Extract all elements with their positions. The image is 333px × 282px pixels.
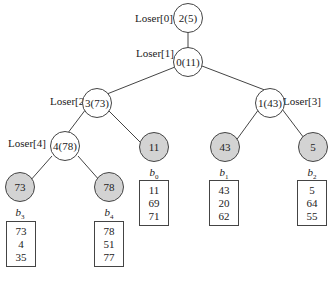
leaf-b0-node: 11 xyxy=(139,132,169,162)
buffer-b0: 11 69 71 xyxy=(139,180,169,226)
loser1-node: 0(11) xyxy=(173,47,203,77)
leaf-b4-node: 78 xyxy=(94,172,124,202)
leaf-b3-node: 73 xyxy=(5,172,35,202)
leaf-b2-label: b2 xyxy=(297,166,327,181)
buffer-b4-item: 77 xyxy=(104,251,115,264)
loser3-node: 1(43) xyxy=(255,88,285,118)
buffer-b0-item: 71 xyxy=(149,210,160,223)
loser0-node: 2(5) xyxy=(173,3,203,33)
leaf-b4-label: b4 xyxy=(94,206,124,221)
buffer-b2-item: 64 xyxy=(307,197,318,210)
buffer-b3-item: 73 xyxy=(16,225,27,238)
leaf-b0-label: b0 xyxy=(139,166,169,181)
leaf-b3-label: b3 xyxy=(5,206,35,221)
loser2-node: 3(73) xyxy=(82,88,112,118)
buffer-b0-item: 69 xyxy=(149,197,160,210)
loser0-label: Loser[0] xyxy=(135,12,173,24)
buffer-b4-item: 78 xyxy=(104,225,115,238)
leaf-b1-node: 43 xyxy=(210,132,240,162)
buffer-b4: 78 51 77 xyxy=(94,221,124,267)
buffer-b1-item: 20 xyxy=(219,197,230,210)
loser4-label: Loser[4] xyxy=(8,137,46,149)
buffer-b1-item: 43 xyxy=(219,184,230,197)
edge-loser1-loser3 xyxy=(202,66,270,92)
buffer-b1-item: 62 xyxy=(219,210,230,223)
loser3-label: Loser[3] xyxy=(283,95,321,107)
edge-loser3-b1 xyxy=(235,109,259,142)
buffer-b0-item: 11 xyxy=(149,184,160,197)
loser1-label: Loser[1] xyxy=(136,47,174,59)
leaf-b1-label: b1 xyxy=(209,166,239,181)
buffer-b2: 5 64 55 xyxy=(297,180,327,226)
edge-loser2-b0 xyxy=(107,109,140,142)
buffer-b2-item: 55 xyxy=(307,210,318,223)
buffer-b3-item: 4 xyxy=(18,238,24,251)
buffer-b3: 73 4 35 xyxy=(6,221,36,267)
buffer-b4-item: 51 xyxy=(104,238,115,251)
loser4-node: 4(78) xyxy=(50,131,80,161)
buffer-b1: 43 20 62 xyxy=(209,180,239,226)
edge-loser1-loser2 xyxy=(107,67,175,94)
buffer-b2-item: 5 xyxy=(309,184,315,197)
leaf-b2-node: 5 xyxy=(298,132,328,162)
buffer-b3-item: 35 xyxy=(16,251,27,264)
